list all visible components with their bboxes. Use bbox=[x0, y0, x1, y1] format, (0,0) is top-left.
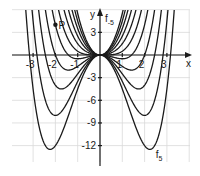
x-tick-label: -1 bbox=[70, 59, 79, 70]
x-tick-label: -2 bbox=[48, 59, 57, 70]
function-family-chart: -3-2-11233-3-6-9-12 x y f-5f5 P bbox=[0, 0, 200, 176]
x-tick-label: 3 bbox=[161, 59, 167, 70]
curve-label-f5: f5 bbox=[156, 149, 163, 162]
y-tick-label: -3 bbox=[87, 72, 96, 83]
curve-label-f-5: f-5 bbox=[105, 13, 114, 26]
x-tick-label: -3 bbox=[26, 59, 35, 70]
y-tick-label: 3 bbox=[90, 27, 96, 38]
x-axis-label: x bbox=[186, 58, 191, 69]
x-tick-label: 1 bbox=[117, 59, 123, 70]
y-axis-arrow-icon bbox=[97, 8, 103, 16]
y-axis-label: y bbox=[90, 9, 95, 20]
point-P bbox=[53, 23, 57, 27]
y-tick-label: -12 bbox=[82, 140, 97, 151]
x-tick-label: 2 bbox=[139, 59, 145, 70]
ticks: -3-2-11233-3-6-9-12 bbox=[26, 27, 167, 151]
y-tick-label: -9 bbox=[87, 117, 96, 128]
y-tick-label: -6 bbox=[87, 95, 96, 106]
point-label: P bbox=[58, 20, 65, 31]
